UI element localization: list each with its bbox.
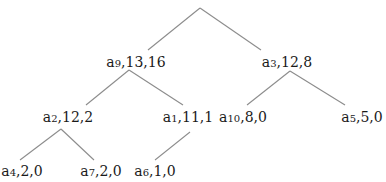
node-index: 3 [270, 58, 276, 69]
node-index: 2 [51, 113, 57, 124]
node-a5: a5,5,0 [341, 109, 382, 127]
node-index: 6 [143, 167, 149, 178]
node-a4: a4,2,0 [1, 163, 42, 181]
node-values: ,2,0 [16, 163, 43, 179]
edge-a2-a4 [20, 129, 61, 160]
node-a6: a6,1,0 [134, 163, 175, 181]
node-values: ,13,16 [121, 54, 166, 70]
node-a2: a2,12,2 [43, 109, 93, 127]
edge-a9-a1 [129, 70, 183, 105]
node-index: 4 [10, 167, 16, 178]
node-index: 9 [115, 58, 121, 69]
node-values: ,12,8 [277, 54, 313, 70]
node-index: 1 [171, 113, 177, 124]
edge-root-a9 [148, 8, 200, 50]
node-a3: a3,12,8 [262, 54, 312, 72]
tree-diagram: a9,13,16 a3,12,8 a2,12,2 a1,11,1 a10,8,0… [0, 0, 386, 182]
node-index: 7 [89, 167, 95, 178]
node-a10: a10,8,0 [219, 109, 267, 127]
node-values: ,12,2 [58, 109, 94, 125]
node-a1: a1,11,1 [163, 109, 213, 127]
node-values: ,8,0 [240, 109, 267, 125]
node-values: ,2,0 [95, 163, 122, 179]
node-a7: a7,2,0 [80, 163, 121, 181]
node-values: ,5,0 [356, 109, 383, 125]
node-values: ,1,0 [149, 163, 176, 179]
edge-a3-a10 [247, 71, 290, 105]
node-index: 5 [350, 113, 356, 124]
edge-a2-a7 [61, 129, 94, 160]
edge-a3-a5 [290, 71, 345, 105]
edge-root-a3 [200, 8, 261, 50]
node-index: 10 [227, 113, 240, 124]
edge-a1-a6 [155, 132, 190, 160]
edge-a9-a2 [86, 70, 129, 105]
node-values: ,11,1 [178, 109, 214, 125]
node-a9: a9,13,16 [106, 54, 165, 72]
tree-edges [0, 0, 386, 182]
